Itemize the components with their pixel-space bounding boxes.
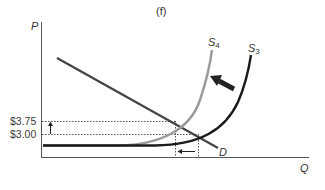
supply-s4-label-sub: 4 [215, 41, 219, 50]
price-tick-high: $3.75 [10, 116, 36, 127]
supply-demand-chart [0, 0, 325, 190]
chart-title: (f) [156, 6, 166, 17]
price-tick-low: $3.00 [10, 129, 36, 140]
supply-shift-arrow-icon [210, 75, 234, 89]
supply-s3-label-sub: 3 [255, 47, 259, 56]
quantity-fall-arrow-icon [178, 149, 196, 154]
y-axis-label: P [31, 21, 38, 32]
supply-s4-label: S4 [208, 37, 220, 50]
demand-label: D [219, 147, 227, 158]
supply-s3-label: S3 [248, 43, 260, 56]
x-axis-label: Q [300, 163, 309, 174]
price-rise-arrow-icon [48, 122, 53, 135]
